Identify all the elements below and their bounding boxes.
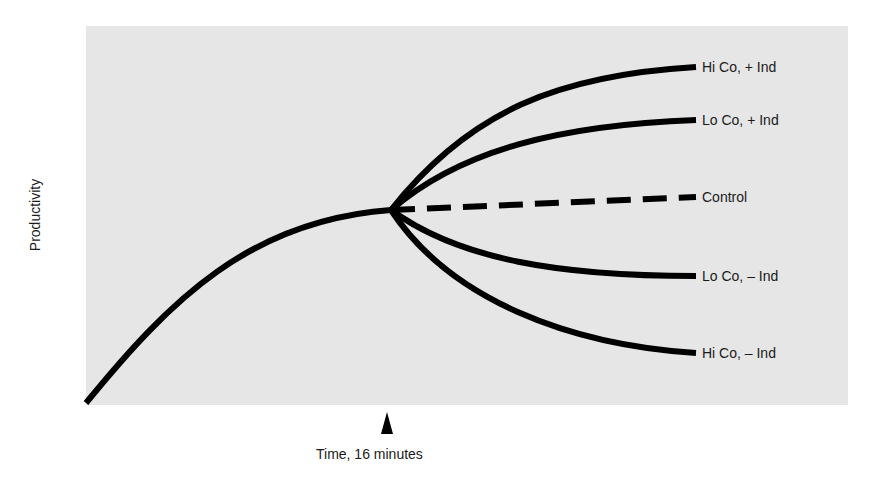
legend-control: Control xyxy=(702,189,747,205)
line-hi-co-minus-ind xyxy=(391,210,696,353)
legend-lo-co-minus-ind: Lo Co, – Ind xyxy=(702,268,778,284)
y-axis-label: Productivity xyxy=(27,179,43,251)
legend-hi-co-plus-ind: Hi Co, + Ind xyxy=(702,59,776,75)
legend-hi-co-minus-ind: Hi Co, – Ind xyxy=(702,345,776,361)
baseline-curve xyxy=(86,210,391,403)
line-control xyxy=(391,197,696,210)
line-lo-co-minus-ind xyxy=(391,210,696,276)
legend-lo-co-plus-ind: Lo Co, + Ind xyxy=(702,112,779,128)
x-axis-label: Time, 16 minutes xyxy=(316,446,423,462)
time-marker-arrow-icon xyxy=(381,412,393,434)
